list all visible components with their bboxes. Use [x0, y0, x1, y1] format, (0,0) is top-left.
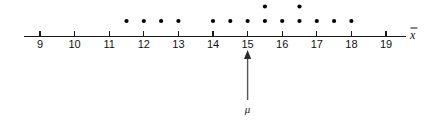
data-dot — [297, 4, 301, 8]
data-dot — [263, 19, 267, 23]
data-dot — [211, 19, 215, 23]
dotplot-canvas: 910111213141516171819xμ — [0, 0, 435, 120]
data-dot — [124, 19, 128, 23]
axis-variable-label: x — [409, 28, 416, 42]
axis-tick-label-14: 14 — [207, 38, 219, 50]
data-dot — [315, 19, 319, 23]
data-dot-group — [124, 4, 353, 23]
data-dot — [142, 19, 146, 23]
axis-tick-label-16: 16 — [276, 38, 288, 50]
axis-tick-label-11: 11 — [103, 38, 114, 50]
axis-tick-label-19: 19 — [380, 38, 392, 50]
data-dot — [159, 19, 163, 23]
mu-arrow-head-icon — [244, 50, 251, 59]
data-dot — [228, 19, 232, 23]
data-dot — [349, 19, 353, 23]
data-dot — [176, 19, 180, 23]
axis-tick-label-9: 9 — [37, 38, 43, 50]
axis-tick-label-15: 15 — [241, 38, 253, 50]
data-dot — [332, 19, 336, 23]
axis-tick-label-18: 18 — [345, 38, 357, 50]
axis-tick-group: 910111213141516171819 — [37, 31, 392, 51]
mu-pointer-annotation: μ — [244, 50, 251, 115]
data-dot — [297, 19, 301, 23]
data-dot — [246, 19, 250, 23]
axis-tick-label-12: 12 — [138, 38, 150, 50]
dotplot-figure: 910111213141516171819xμ x μ — [0, 0, 435, 120]
axis-tick-label-10: 10 — [68, 38, 80, 50]
axis-tick-label-13: 13 — [172, 38, 184, 50]
mu-symbol-label: μ — [244, 103, 251, 115]
data-dot — [263, 4, 267, 8]
data-dot — [280, 19, 284, 23]
axis-tick-label-17: 17 — [311, 38, 323, 50]
